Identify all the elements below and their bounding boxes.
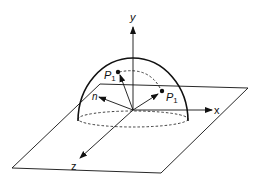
- ground-plane: [12, 84, 248, 173]
- z-axis-label: z: [71, 160, 77, 172]
- y-axis-label: y: [129, 11, 137, 23]
- normal-label: n: [92, 91, 98, 102]
- p1-right-subscript: 1: [173, 96, 178, 105]
- point-p1-upper: [116, 70, 120, 74]
- p1-upper-subscript: 1: [111, 74, 116, 83]
- normal-vector: [99, 97, 133, 110]
- hemisphere-base-ellipse: [78, 111, 188, 127]
- point-p1-right: [160, 89, 164, 93]
- vector-to-p1-right: [133, 94, 158, 110]
- vector-to-p1-upper: [120, 75, 133, 110]
- p1-upper-label: P1: [104, 69, 116, 83]
- p1-right-label: P1: [166, 91, 178, 105]
- x-axis-label: x: [214, 104, 220, 116]
- z-axis: [80, 110, 133, 158]
- hemisphere-diagram: y x z n P1 P1: [0, 0, 260, 181]
